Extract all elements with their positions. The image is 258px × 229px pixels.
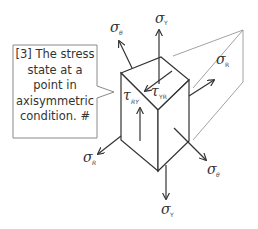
svg-text:R: R (225, 61, 229, 68)
svg-text:Y: Y (169, 211, 174, 218)
label-sigma-r-right: σ R (216, 51, 229, 68)
callout-text: [3] The stress state at a point in axisy… (14, 47, 96, 125)
svg-text:τ: τ (151, 83, 159, 99)
label-sigma-y-bottom: σ Y (161, 201, 174, 218)
svg-text:θ: θ (119, 29, 123, 36)
sigma-theta-top-arrow (119, 41, 132, 68)
sigma-r-right-arrow (189, 80, 214, 96)
label-sigma-r-left: σ R (83, 149, 96, 166)
svg-text:θ: θ (216, 171, 220, 178)
svg-text:RY: RY (131, 98, 140, 105)
svg-text:Y: Y (163, 19, 168, 26)
label-sigma-theta-top: σ θ (110, 19, 123, 36)
label-sigma-theta-bottom: σ θ (207, 161, 220, 178)
sigma-r-left-arrow (98, 136, 121, 154)
svg-text:R: R (92, 159, 96, 166)
svg-text:τ: τ (123, 87, 131, 103)
svg-text:YR: YR (158, 93, 167, 100)
label-sigma-y-top: σ Y (155, 10, 168, 26)
stress-cube (121, 57, 189, 171)
